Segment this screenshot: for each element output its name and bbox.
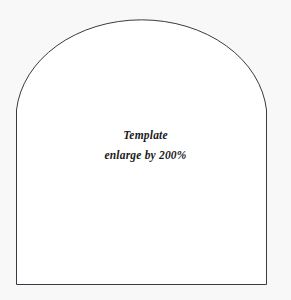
caption-title: Template [0, 127, 291, 143]
caption-instruction: enlarge by 200% [0, 147, 291, 163]
template-caption: Template enlarge by 200% [0, 127, 291, 164]
template-canvas: Template enlarge by 200% [0, 0, 291, 300]
